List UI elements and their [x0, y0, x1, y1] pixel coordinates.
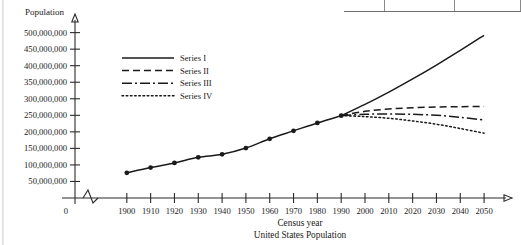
x-tick-label: 1960 — [261, 206, 278, 216]
data-point-marker — [339, 113, 344, 118]
x-tick-label-zero: 0 — [64, 206, 68, 216]
x-tick-label: 2010 — [380, 206, 397, 216]
x-tick-label: 1950 — [237, 206, 254, 216]
plot-area — [124, 35, 484, 175]
y-axis-title: Population — [25, 7, 65, 17]
data-point-marker — [220, 152, 225, 157]
y-tick-label: 450,000,000 — [24, 44, 67, 54]
legend-label-series-i: Series I — [180, 53, 206, 63]
x-tick-label: 1990 — [333, 206, 350, 216]
chart-svg: 50,000,000100,000,000150,000,000200,000,… — [0, 0, 521, 245]
series-line-series-i — [341, 35, 484, 115]
x-axis: 0 19001910192019301940195019601970198019… — [62, 190, 512, 216]
x-tick-label: 1900 — [118, 206, 135, 216]
data-point-marker — [291, 128, 296, 133]
x-tick-label: 1930 — [190, 206, 207, 216]
x-tick-label-group: 1900191019201930194019501960197019801990… — [118, 206, 492, 216]
x-tick-label: 2040 — [452, 206, 469, 216]
x-tick-label: 2030 — [428, 206, 445, 216]
y-tick-label: 150,000,000 — [24, 143, 67, 153]
x-tick-label: 1910 — [142, 206, 159, 216]
x-tick-label: 2020 — [404, 206, 421, 216]
y-tick-label: 250,000,000 — [24, 110, 67, 120]
series-line-historical — [127, 116, 341, 173]
y-tick-label: 300,000,000 — [24, 94, 67, 104]
data-point-marker — [244, 146, 249, 151]
x-tick-label: 2000 — [356, 206, 373, 216]
x-axis-break-zigzag — [83, 190, 98, 203]
y-tick-label-group: 50,000,000100,000,000150,000,000200,000,… — [24, 28, 67, 187]
data-point-marker — [315, 121, 320, 126]
y-tick-label: 100,000,000 — [24, 160, 67, 170]
data-point-marker — [196, 155, 201, 160]
y-axis: 50,000,000100,000,000150,000,000200,000,… — [24, 14, 80, 198]
y-tick-label: 400,000,000 — [24, 61, 67, 71]
y-tick-label: 50,000,000 — [28, 176, 67, 186]
data-point-marker — [172, 161, 177, 166]
x-tick-label: 1970 — [285, 206, 302, 216]
data-point-marker — [124, 170, 129, 175]
y-tick-label: 200,000,000 — [24, 127, 67, 137]
x-axis-title: Census year — [277, 218, 323, 228]
chart-legend: Series ISeries IISeries IIISeries IV — [122, 53, 213, 101]
population-chart: 50,000,000100,000,000150,000,000200,000,… — [0, 0, 521, 245]
y-tick-label: 350,000,000 — [24, 77, 67, 87]
y-tick-label: 500,000,000 — [24, 28, 67, 38]
data-point-marker — [148, 165, 153, 170]
x-tick-label: 2050 — [475, 206, 492, 216]
legend-label-series-iv: Series IV — [180, 91, 213, 101]
legend-label-series-ii: Series II — [180, 66, 209, 76]
x-tick-label: 1980 — [309, 206, 326, 216]
x-tick-label: 1940 — [213, 206, 230, 216]
legend-label-series-iii: Series III — [180, 78, 212, 88]
x-tick-label: 1920 — [166, 206, 183, 216]
data-point-marker — [267, 136, 272, 141]
chart-caption: United States Population — [254, 230, 347, 240]
